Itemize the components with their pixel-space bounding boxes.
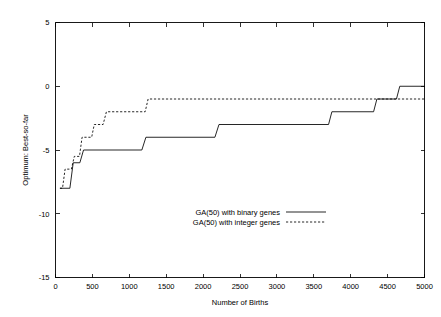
legend-label-2: GA(50) with integer genes — [193, 218, 280, 227]
series-line-2 — [60, 99, 425, 188]
y-tick-label: -15 — [39, 273, 50, 282]
y-tick-label: -10 — [39, 210, 50, 219]
x-tick-label: 3000 — [269, 282, 286, 291]
x-tick-label: 2000 — [195, 282, 212, 291]
series-line-1 — [60, 86, 425, 188]
x-tick-label: 1000 — [121, 282, 138, 291]
x-tick-label: 4000 — [342, 282, 359, 291]
x-tick-label: 5000 — [416, 282, 433, 291]
y-tick-label: -5 — [43, 146, 50, 155]
y-axis-title: Optimum: Best-so-far — [21, 114, 30, 186]
x-axis-title: Number of Births — [212, 298, 269, 307]
x-tick-label: 3500 — [305, 282, 322, 291]
x-tick-label: 2500 — [232, 282, 249, 291]
y-tick-label: 5 — [45, 18, 49, 27]
x-tick-label: 1500 — [158, 282, 175, 291]
legend-label-1: GA(50) with binary genes — [195, 208, 280, 217]
chart-figure: 0500100015002000250030003500400045005000… — [0, 0, 441, 317]
y-tick-label: 0 — [45, 82, 49, 91]
x-tick-label: 500 — [86, 282, 99, 291]
x-tick-label: 4500 — [379, 282, 396, 291]
x-tick-label: 0 — [53, 282, 57, 291]
line-chart: 0500100015002000250030003500400045005000… — [0, 0, 441, 317]
